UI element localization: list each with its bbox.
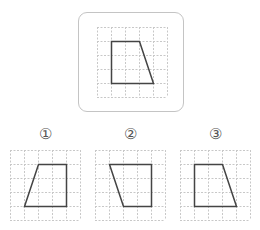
option-3-grid <box>180 150 251 221</box>
option-1-grid <box>10 150 81 221</box>
option-1-label[interactable]: ① <box>30 126 60 142</box>
option-2-grid-trapezoid <box>110 165 152 207</box>
option-3-grid-trapezoid <box>195 165 237 207</box>
reference-grid-shape-trapezoid <box>112 42 154 84</box>
option-2-label[interactable]: ② <box>115 126 145 142</box>
option-1-grid-trapezoid <box>25 165 67 207</box>
reference-grid <box>0 0 260 230</box>
option-2-grid <box>95 150 166 221</box>
reference-grid-shape <box>97 27 168 98</box>
option-3-label[interactable]: ③ <box>200 126 230 142</box>
